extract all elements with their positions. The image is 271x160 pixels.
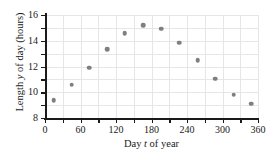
data-point xyxy=(195,58,200,63)
x-axis-tick-label: 360 xyxy=(241,124,271,135)
y-gridline xyxy=(45,41,258,42)
y-axis-tick xyxy=(41,79,46,80)
data-point xyxy=(249,102,254,107)
x-axis-tick xyxy=(223,118,224,123)
data-point xyxy=(105,47,110,52)
x-axis-title-post: of year xyxy=(147,138,179,149)
y-axis-tick xyxy=(41,67,46,68)
x-axis-tick xyxy=(116,118,117,123)
x-axis-tick-label: 240 xyxy=(170,124,204,135)
y-axis-tick xyxy=(41,92,46,93)
y-gridline xyxy=(45,105,258,106)
data-point xyxy=(177,40,182,45)
plot-area xyxy=(45,15,258,118)
x-axis-title: Day t of year xyxy=(44,138,259,149)
x-axis-tick xyxy=(134,118,135,123)
x-axis-tick xyxy=(169,118,170,123)
data-point xyxy=(123,31,128,36)
data-point xyxy=(213,76,218,81)
x-gridline xyxy=(258,15,259,118)
y-axis-tick-label: 10 xyxy=(20,87,38,97)
data-point xyxy=(87,65,92,70)
data-point xyxy=(141,23,146,28)
scatter-plot-figure: Length y of day (hours) Day t of year 06… xyxy=(0,0,271,160)
x-axis-tick xyxy=(240,118,241,123)
x-axis-tick-label: 300 xyxy=(206,124,240,135)
y-axis-tick xyxy=(41,54,46,55)
y-axis-tick-label: 16 xyxy=(20,10,38,20)
data-point xyxy=(52,98,57,103)
x-axis-title-pre: Day xyxy=(124,138,144,149)
x-axis-tick xyxy=(98,118,99,123)
y-axis-tick xyxy=(41,105,46,106)
y-axis-tick-label: 12 xyxy=(20,62,38,72)
x-axis-tick xyxy=(63,118,64,123)
y-gridline xyxy=(45,67,258,68)
y-gridline xyxy=(45,92,258,93)
y-axis-tick-label: 8 xyxy=(20,113,38,123)
x-axis-tick xyxy=(81,118,82,123)
x-axis-tick xyxy=(152,118,153,123)
x-axis-tick-label: 60 xyxy=(64,124,98,135)
x-axis-tick-label: 120 xyxy=(99,124,133,135)
x-axis-tick-label: 0 xyxy=(28,124,62,135)
y-gridline xyxy=(45,54,258,55)
y-gridline xyxy=(45,79,258,80)
y-axis-tick xyxy=(41,118,46,119)
y-gridline xyxy=(45,28,258,29)
x-axis-tick xyxy=(187,118,188,123)
y-axis-tick xyxy=(41,41,46,42)
y-axis-tick xyxy=(41,15,46,16)
x-axis-tick xyxy=(205,118,206,123)
data-point xyxy=(69,82,74,87)
y-axis-tick-label: 14 xyxy=(20,36,38,46)
data-point xyxy=(159,26,164,31)
y-axis-title-variable: y xyxy=(14,75,25,80)
x-axis-tick-label: 180 xyxy=(135,124,169,135)
x-axis-tick xyxy=(258,118,259,123)
data-point xyxy=(231,93,236,98)
y-axis-tick xyxy=(41,28,46,29)
y-gridline xyxy=(45,15,258,16)
